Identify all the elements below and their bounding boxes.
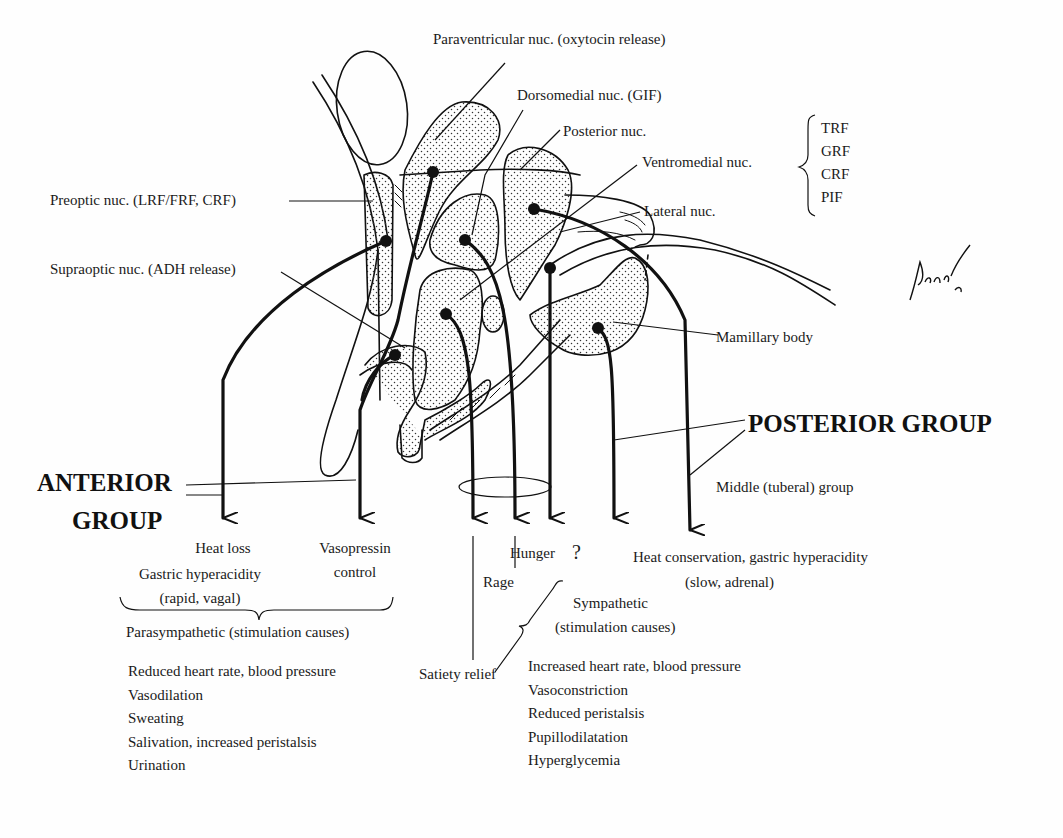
outcome-vasopressin-control: control — [300, 565, 410, 580]
effect-item: Hyperglycemia — [528, 749, 741, 773]
factor-item: TRF — [821, 117, 850, 140]
outcome-vasopressin: Vasopressin — [300, 541, 410, 556]
effect-item: Reduced peristalsis — [528, 702, 741, 726]
sympathetic-subheading: (stimulation causes) — [555, 620, 675, 635]
label-paraventricular: Paraventricular nuc. (oxytocin release) — [433, 32, 665, 47]
outcome-rage: Rage — [483, 575, 514, 590]
ventromedial-nucleus — [413, 268, 482, 409]
parasympathetic-effects-list: Reduced heart rate, blood pressure Vasod… — [128, 660, 336, 778]
outcome-gastric-rapid-detail: (rapid, vagal) — [150, 591, 250, 606]
outcome-heat-conservation: Heat conservation, gastric hyperacidity — [633, 550, 868, 565]
outcome-unknown: ? — [572, 542, 581, 562]
hypothalamus-diagram: Paraventricular nuc. (oxytocin release) … — [0, 0, 1063, 838]
factor-item: CRF — [821, 163, 850, 186]
effect-item: Sweating — [128, 707, 336, 731]
heading-anterior-group: GROUP — [72, 508, 162, 533]
heading-posterior-group: POSTERIOR GROUP — [748, 411, 992, 436]
sympathetic-effects-list: Increased heart rate, blood pressure Vas… — [528, 655, 741, 773]
outcome-satiety-relief: Satiety relief — [419, 667, 496, 682]
label-dorsomedial: Dorsomedial nuc. (GIF) — [517, 88, 662, 103]
effect-item: Urination — [128, 754, 336, 778]
signature-mark — [910, 245, 970, 300]
factor-item: PIF — [821, 186, 850, 209]
outcome-heat-loss: Heat loss — [163, 541, 283, 556]
pathway-mamillary — [598, 328, 614, 518]
label-posterior: Posterior nuc. — [563, 124, 646, 139]
label-preoptic: Preoptic nuc. (LRF/FRF, CRF) — [50, 193, 236, 208]
releasing-factors-list: TRF GRF CRF PIF — [821, 117, 850, 209]
effect-item: Pupillodilatation — [528, 726, 741, 750]
effect-item: Reduced heart rate, blood pressure — [128, 660, 336, 684]
outcome-heat-conservation-detail: (slow, adrenal) — [685, 575, 774, 590]
parasympathetic-heading: Parasympathetic (stimulation causes) — [126, 625, 349, 640]
effect-item: Vasoconstriction — [528, 679, 741, 703]
label-lateral: Lateral nuc. — [644, 204, 716, 219]
label-middle-group: Middle (tuberal) group — [716, 480, 853, 495]
effect-item: Vasodilation — [128, 684, 336, 708]
label-supraoptic: Supraoptic nuc. (ADH release) — [50, 262, 236, 277]
outcome-gastric-rapid: Gastric hyperacidity — [120, 567, 280, 582]
fornix-arc-1 — [550, 234, 830, 290]
outcome-hunger: Hunger — [510, 546, 555, 561]
sympathetic-heading: Sympathetic — [573, 596, 648, 611]
factor-item: GRF — [821, 140, 850, 163]
label-ventromedial: Ventromedial nuc. — [642, 155, 752, 170]
label-mamillary: Mamillary body — [716, 330, 813, 345]
effect-item: Salivation, increased peristalsis — [128, 731, 336, 755]
heading-anterior: ANTERIOR — [37, 470, 172, 495]
effect-item: Increased heart rate, blood pressure — [528, 655, 741, 679]
